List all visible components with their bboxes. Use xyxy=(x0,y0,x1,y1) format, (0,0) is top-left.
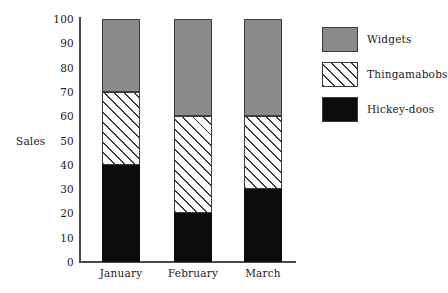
legend-label: Hickey-doos xyxy=(367,104,434,115)
legend-label: Thingamabobs xyxy=(367,69,448,80)
y-tick-label: 70 xyxy=(40,87,74,98)
legend-item[interactable]: Thingamabobs xyxy=(322,62,442,97)
legend-item[interactable]: Widgets xyxy=(322,27,442,62)
y-tick-label: 30 xyxy=(40,184,74,195)
y-tick-label: 80 xyxy=(40,63,74,74)
bar-segment[interactable] xyxy=(244,189,282,262)
y-tick-label: 20 xyxy=(40,208,74,219)
chart-legend: WidgetsThingamabobsHickey-doos xyxy=(322,27,442,132)
legend-swatch-icon xyxy=(322,27,358,52)
bar-segment[interactable] xyxy=(174,19,212,116)
x-tick-label: January xyxy=(100,268,143,279)
y-tick-label: 60 xyxy=(40,111,74,122)
y-tick-label: 40 xyxy=(40,160,74,171)
x-axis-tick-labels: JanuaryFebruaryMarch xyxy=(80,268,295,284)
y-tick-label: 10 xyxy=(40,233,74,244)
bar-segment[interactable] xyxy=(244,19,282,116)
legend-label: Widgets xyxy=(367,34,412,45)
bar-segment[interactable] xyxy=(102,19,140,92)
bar-group[interactable] xyxy=(102,19,140,262)
bar-group[interactable] xyxy=(244,19,282,262)
y-axis-tick-labels: 1009080706050403020100 xyxy=(38,0,74,293)
legend-swatch-icon xyxy=(322,62,358,87)
legend-item[interactable]: Hickey-doos xyxy=(322,97,442,132)
bar-segment[interactable] xyxy=(174,213,212,262)
y-tick-label: 90 xyxy=(40,38,74,49)
x-tick-label: March xyxy=(245,268,281,279)
bar-segment[interactable] xyxy=(174,116,212,213)
bar-segment[interactable] xyxy=(102,165,140,262)
y-tick-label: 100 xyxy=(40,14,74,25)
plot-area xyxy=(80,19,295,262)
x-tick-label: February xyxy=(168,268,218,279)
y-tick-label: 0 xyxy=(40,257,74,268)
legend-swatch-icon xyxy=(322,97,358,122)
y-tick-label: 50 xyxy=(40,136,74,147)
bar-segment[interactable] xyxy=(244,116,282,189)
bar-segment[interactable] xyxy=(102,92,140,165)
bar-group[interactable] xyxy=(174,19,212,262)
